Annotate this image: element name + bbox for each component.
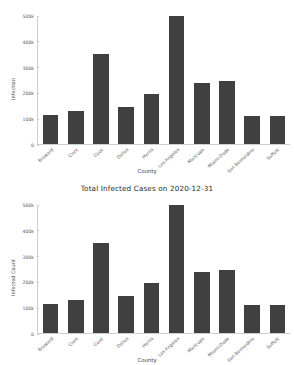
y-tick-label: 300k <box>0 254 37 259</box>
x-tick-label-text: Dallas <box>116 147 130 160</box>
y-tick-label: 200k <box>0 280 37 285</box>
bar <box>194 272 210 333</box>
bar-slot <box>114 16 139 144</box>
x-tick-label-text: Broward <box>37 147 54 163</box>
bar <box>244 116 260 144</box>
bar <box>144 283 160 333</box>
y-tick-label: 0 <box>0 332 37 337</box>
bar <box>219 270 235 333</box>
y-tick-mark <box>37 205 39 206</box>
axes-top <box>37 16 290 145</box>
bar-slot <box>189 16 214 144</box>
bar-slot <box>63 205 88 333</box>
y-tick-label: 400k <box>0 228 37 233</box>
bar-slot <box>214 16 239 144</box>
x-tick-label-text: Suffolk <box>266 147 281 161</box>
bar <box>144 94 160 144</box>
y-tick-mark <box>37 119 39 120</box>
bar-slot <box>88 16 113 144</box>
chart-figure-bottom: Total Infected Cases on 2020-12-31 0100k… <box>0 183 294 365</box>
bar <box>194 83 210 144</box>
x-axis-line-top <box>37 144 290 145</box>
y-tick-mark <box>37 41 39 42</box>
bar-slot <box>139 16 164 144</box>
x-tick-label-text: Cook <box>93 147 105 158</box>
x-tick-label-text: Dallas <box>116 336 130 349</box>
y-tick-label: 100k <box>0 306 37 311</box>
y-tick-label: 500k <box>0 203 37 208</box>
x-axis-label-top: County <box>0 168 294 174</box>
y-tick-mark <box>37 16 39 17</box>
bar <box>93 243 109 333</box>
y-tick-label: 100k <box>0 117 37 122</box>
x-tick-label-text: Clark <box>67 147 79 158</box>
bar <box>118 107 134 144</box>
bar <box>43 304 59 333</box>
y-tick-mark <box>37 308 39 309</box>
chart-figure-top: 0100k200k300k400k500k Infection BrowardC… <box>0 0 294 183</box>
x-tick-label-text: Clark <box>67 336 79 347</box>
y-tick-label: 0 <box>0 143 37 148</box>
bar-slot <box>240 16 265 144</box>
y-tick-mark <box>37 282 39 283</box>
bar-series-bottom <box>38 205 290 333</box>
axes-bottom <box>37 205 290 334</box>
bar <box>169 205 185 333</box>
y-tick-label: 200k <box>0 91 37 96</box>
x-tick-label-text: Maricopa <box>187 336 206 353</box>
bar-slot <box>38 205 63 333</box>
bar-slot <box>265 205 290 333</box>
bar-slot <box>139 205 164 333</box>
bar <box>43 115 59 144</box>
y-tick-mark <box>37 256 39 257</box>
x-tick-label-text: Maricopa <box>187 147 206 164</box>
x-tick-label-text: Cook <box>93 336 105 347</box>
bar-slot <box>265 16 290 144</box>
chart-title-bottom: Total Infected Cases on 2020-12-31 <box>0 183 294 194</box>
bar-series-top <box>38 16 290 144</box>
y-tick-label: 400k <box>0 39 37 44</box>
bar-slot <box>214 205 239 333</box>
bar <box>270 116 286 144</box>
bar-slot <box>189 205 214 333</box>
bar <box>118 296 134 333</box>
y-tick-mark <box>37 93 39 94</box>
x-tick-label-text: Suffolk <box>266 336 281 350</box>
bar <box>68 111 84 144</box>
x-tick-label-text: Harris <box>141 336 154 349</box>
x-axis-label-bottom: County <box>0 357 294 363</box>
y-tick-mark <box>37 67 39 68</box>
bar-slot <box>63 16 88 144</box>
bar-slot <box>114 205 139 333</box>
bar-slot <box>240 205 265 333</box>
y-tick-mark <box>37 230 39 231</box>
y-tick-label: 300k <box>0 65 37 70</box>
bar <box>169 16 185 144</box>
bar-slot <box>88 205 113 333</box>
bar-slot <box>164 16 189 144</box>
bar <box>68 300 84 333</box>
x-tick-label-text: Harris <box>141 147 154 160</box>
bar <box>219 81 235 144</box>
bar-slot <box>164 205 189 333</box>
bar-slot <box>38 16 63 144</box>
bar <box>270 305 286 333</box>
y-tick-label: 500k <box>0 14 37 19</box>
x-tick-label-text: Broward <box>37 336 54 352</box>
y-axis-label-bottom: Infected Count <box>10 259 16 296</box>
bar <box>244 305 260 333</box>
bar <box>93 54 109 144</box>
y-axis-label-top: Infection <box>10 78 16 100</box>
x-axis-line-bottom <box>37 333 290 334</box>
